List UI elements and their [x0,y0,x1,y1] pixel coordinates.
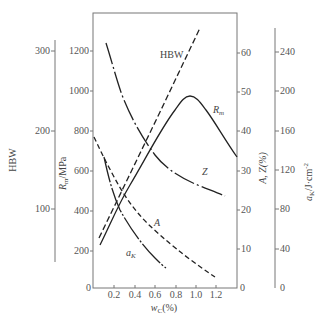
hbw-tick: 200 [35,125,50,136]
az-tick: 60 [241,47,251,58]
hbw-axis: 300 200 100 HBW [7,40,55,262]
ak-tick: 120 [280,164,295,175]
x-tick: 0.8 [170,289,183,300]
rm-axis-label: Rm/MPa [57,156,70,191]
rm-tick: 600 [74,165,89,176]
az-tick: 10 [241,243,251,254]
rm-curve-label: Rm [212,104,224,117]
rm-axis: 1200 1000 800 600 400 200 0 Rm/MPa [57,45,93,293]
rm-curve [100,96,237,245]
ak-axis-label: aK/J·cm-2 [302,162,316,201]
x-tick: 1.2 [210,289,223,300]
ak-tick: 160 [280,125,295,136]
z-curve-label: Z [202,166,208,177]
x-axis: 0.2 0.4 0.6 0.8 1.0 1.2 wC(%) [108,285,223,315]
a-curve [94,137,215,277]
az-tick: 0 [240,282,245,293]
rm-tick: 200 [74,245,89,256]
rm-tick: 1000 [69,85,89,96]
ak-tick: 40 [280,243,290,254]
rm-tick: 800 [74,125,89,136]
az-axis-label: A, Z(%) [257,152,269,185]
hbw-tick: 100 [35,203,50,214]
hbw-curve-label: HBW [160,49,184,60]
rm-tick: 400 [74,205,89,216]
ak-tick: 80 [280,203,290,214]
hbw-axis-label: HBW [7,148,18,172]
rm-tick: 0 [86,282,91,293]
hbw-tick: 300 [35,45,50,56]
a-curve-label: A [153,217,161,228]
x-tick: 0.4 [129,289,142,300]
az-tick: 20 [241,204,251,215]
carbon-content-chart: 300 200 100 HBW 1200 1000 800 600 400 20… [0,0,324,326]
x-tick: 0.6 [149,289,162,300]
ak-curve-label: aK [126,247,136,260]
ak-axis: 240 200 160 120 80 40 0 aK/J·cm-2 [275,28,316,293]
rm-tick: 1200 [69,45,89,56]
az-tick: 40 [241,125,251,136]
az-tick: 30 [241,165,251,176]
az-tick: 50 [241,86,251,97]
hbw-curve [99,28,200,238]
ak-tick: 240 [280,46,295,57]
az-axis: 60 50 40 30 20 10 0 A, Z(%) [237,47,269,293]
x-tick: 0.2 [108,289,121,300]
ak-tick: 0 [280,282,285,293]
x-axis-label: wC(%) [151,302,177,315]
x-tick: 1.0 [190,289,203,300]
ak-tick: 200 [280,85,295,96]
